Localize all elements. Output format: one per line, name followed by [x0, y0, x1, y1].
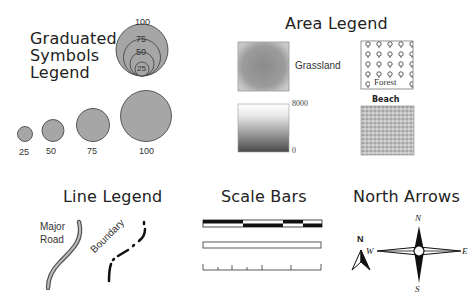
- graduated-symbols-title: Graduated Symbols Legend: [30, 30, 117, 81]
- gradient-min-label: 0: [292, 146, 296, 155]
- circle-label-100: 100: [139, 146, 154, 156]
- compass-n-label: N: [415, 213, 421, 223]
- compass-w-label: W: [366, 246, 374, 256]
- circle-label-75: 75: [87, 146, 97, 156]
- major-road-label: Major Road: [40, 220, 65, 246]
- tick-scale-bar: [203, 264, 321, 270]
- simple-north-label: N: [357, 234, 364, 244]
- grassland-label: Grassland: [295, 60, 341, 71]
- grassland-swatch: [238, 42, 289, 91]
- north-arrows-title: North Arrows: [353, 187, 460, 206]
- forest-label: Forest: [374, 77, 397, 87]
- line-legend-title: Line Legend: [63, 187, 162, 206]
- plain-scale-bar: [203, 242, 321, 248]
- title-line: Legend: [30, 64, 117, 81]
- circle-label-50: 50: [46, 146, 56, 156]
- title-line: Symbols: [30, 47, 117, 64]
- compass-rose-icon: [377, 226, 461, 283]
- nested-label-50: 50: [136, 47, 146, 57]
- label-line: Major: [40, 220, 65, 233]
- nested-label-75: 75: [136, 34, 146, 44]
- circle-label-25: 25: [19, 147, 29, 157]
- graduated-circles: [18, 91, 172, 142]
- gradient-max-label: 8000: [292, 99, 308, 108]
- area-legend-title: Area Legend: [285, 14, 388, 33]
- label-line: Road: [40, 233, 65, 246]
- beach-swatch: [361, 106, 414, 155]
- elevation-gradient-swatch: [238, 104, 289, 152]
- compass-s-label: S: [415, 284, 420, 294]
- title-line: Graduated: [30, 30, 117, 47]
- compass-e-label: E: [462, 246, 468, 256]
- checkered-scale-bar: [203, 220, 322, 227]
- nested-label-25: 25: [137, 64, 146, 73]
- nested-label-100: 100: [135, 17, 150, 27]
- scale-bars-title: Scale Bars: [221, 187, 307, 206]
- beach-label: Beach: [372, 95, 399, 104]
